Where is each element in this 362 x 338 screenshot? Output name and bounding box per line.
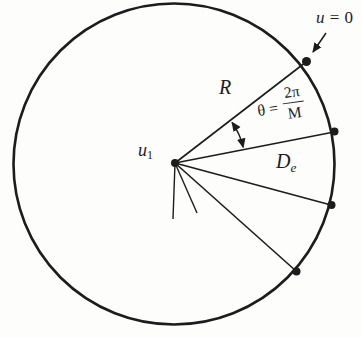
angle-arc-arrow [232,122,243,147]
signal-point-2-dot [331,128,339,136]
partial-radius-line-1 [175,163,197,213]
distance-subscript: e [290,160,296,175]
u0-label: u = 0 [316,9,354,26]
partial-radius-line-2 [173,163,175,219]
signal-point-4-dot [293,268,301,276]
circle-diagram [0,0,362,338]
distance-label: De [276,151,296,174]
theta-equals: θ = [256,100,279,119]
radius-label: R [219,77,231,97]
u0-pointer-arrow [313,33,326,52]
theta-fraction-numerator: 2π [280,83,304,104]
signal-point-3-dot [328,201,336,209]
center-subscript: 1 [147,148,153,162]
signal-point-u0-dot [302,57,311,66]
distance-base: D [276,150,290,172]
center-label: u1 [138,141,153,162]
figure-canvas: u = 0 R θ = 2π M De u1 [0,0,362,338]
center-base: u [138,140,147,160]
center-point-dot [171,159,179,167]
radius-line-2 [175,132,334,163]
theta-label: θ = 2π M [254,83,306,125]
u0-variable: u [316,8,325,27]
theta-fraction-denominator: M [286,101,302,120]
u0-equals-zero: = 0 [325,8,354,27]
